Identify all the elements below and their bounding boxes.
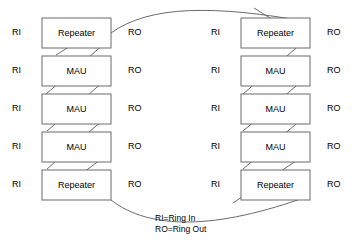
right-node-1-ring-out-label: RO (327, 27, 341, 37)
left-node-1-ring-out-label: RO (128, 27, 142, 37)
right-node-2[interactable]: MAU (241, 56, 310, 86)
left-node-5-ring-in-label: RI (12, 179, 21, 189)
legend-ring-out: RO=Ring Out (155, 224, 207, 234)
right-node-2-ring-in-label: RI (211, 65, 220, 75)
right-node-1-ring-in-label: RI (211, 27, 220, 37)
right-node-2-label: MAU (266, 66, 286, 76)
right-node-4-ring-out-label: RO (327, 141, 341, 151)
right-node-5-ring-in-label: RI (211, 179, 220, 189)
right-node-4-label: MAU (266, 142, 286, 152)
left-node-2[interactable]: MAU (42, 56, 111, 86)
token-ring-diagram: Repeater MAU MAU MAU Repeater RI RI RI R… (0, 0, 362, 246)
left-node-2-ring-out-label: RO (128, 65, 142, 75)
right-node-3-label: MAU (266, 104, 286, 114)
left-node-2-label: MAU (67, 66, 87, 76)
right-node-3[interactable]: MAU (241, 94, 310, 124)
diagram-canvas: Repeater MAU MAU MAU Repeater RI RI RI R… (0, 0, 362, 246)
left-node-4-label: MAU (67, 142, 87, 152)
right-node-4-ring-in-label: RI (211, 141, 220, 151)
left-node-4[interactable]: MAU (42, 132, 111, 162)
left-node-3-ring-in-label: RI (12, 103, 21, 113)
right-node-1[interactable]: Repeater (241, 18, 310, 48)
right-node-3-ring-in-label: RI (211, 103, 220, 113)
left-node-4-ring-in-label: RI (12, 141, 21, 151)
right-node-3-ring-out-label: RO (327, 103, 341, 113)
right-node-2-ring-out-label: RO (327, 65, 341, 75)
left-node-3-label: MAU (67, 104, 87, 114)
left-node-1[interactable]: Repeater (42, 18, 111, 48)
left-node-4-ring-out-label: RO (128, 141, 142, 151)
right-node-1-label: Repeater (257, 28, 294, 38)
left-node-1-ring-in-label: RI (12, 27, 21, 37)
right-node-5-ring-out-label: RO (327, 179, 341, 189)
left-node-1-label: Repeater (58, 28, 95, 38)
left-node-5-label: Repeater (58, 180, 95, 190)
left-node-3[interactable]: MAU (42, 94, 111, 124)
right-node-4[interactable]: MAU (241, 132, 310, 162)
left-node-3-ring-out-label: RO (128, 103, 142, 113)
right-node-5[interactable]: Repeater (241, 170, 310, 200)
legend: RI=Ring In RO=Ring Out (155, 213, 207, 234)
legend-ring-in: RI=Ring In (155, 213, 196, 223)
right-node-5-label: Repeater (257, 180, 294, 190)
left-node-5[interactable]: Repeater (42, 170, 111, 200)
left-node-5-ring-out-label: RO (128, 179, 142, 189)
left-node-2-ring-in-label: RI (12, 65, 21, 75)
